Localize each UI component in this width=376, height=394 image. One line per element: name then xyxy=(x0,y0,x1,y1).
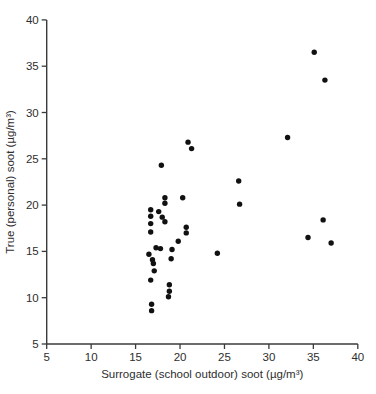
y-tick-label: 25 xyxy=(26,153,39,165)
y-tick-label: 15 xyxy=(26,245,39,257)
data-point xyxy=(153,245,158,250)
data-point xyxy=(180,195,185,200)
y-axis-title: True (personal) soot (µg/m³) xyxy=(4,110,16,254)
data-point xyxy=(149,308,154,313)
data-point xyxy=(167,289,172,294)
data-point xyxy=(162,219,167,224)
data-point xyxy=(305,235,310,240)
data-point xyxy=(158,246,163,251)
scatter-figure: 510152025303540510152025303540Surrogate … xyxy=(0,0,376,394)
data-point xyxy=(237,201,242,206)
y-tick-label: 5 xyxy=(32,338,38,350)
data-point xyxy=(160,214,165,219)
data-point xyxy=(156,209,161,214)
x-tick-label: 30 xyxy=(263,351,276,363)
data-point xyxy=(184,230,189,235)
data-point xyxy=(322,77,327,82)
data-point xyxy=(152,268,157,273)
data-point xyxy=(146,251,151,256)
data-point xyxy=(148,277,153,282)
x-tick-label: 10 xyxy=(85,351,98,363)
y-tick-label: 35 xyxy=(26,60,39,72)
x-tick-label: 20 xyxy=(174,351,187,363)
data-point xyxy=(162,195,167,200)
data-point xyxy=(236,178,241,183)
x-tick-label: 25 xyxy=(218,351,231,363)
x-tick-label: 35 xyxy=(307,351,320,363)
y-tick-label: 10 xyxy=(26,292,39,304)
data-point xyxy=(167,282,172,287)
x-axis-title: Surrogate (school outdoor) soot (µg/m³) xyxy=(101,368,303,380)
data-point xyxy=(185,139,190,144)
scatter-plot: 510152025303540510152025303540Surrogate … xyxy=(0,0,376,394)
data-point xyxy=(148,229,153,234)
data-point xyxy=(169,247,174,252)
data-point xyxy=(215,251,220,256)
data-point xyxy=(159,163,164,168)
data-point xyxy=(148,207,153,212)
data-point xyxy=(148,221,153,226)
x-tick-label: 15 xyxy=(129,351,142,363)
data-point xyxy=(184,225,189,230)
data-point xyxy=(162,201,167,206)
y-tick-label: 20 xyxy=(26,199,39,211)
data-point xyxy=(312,50,317,55)
x-tick-label: 40 xyxy=(351,351,364,363)
y-tick-label: 40 xyxy=(26,14,39,26)
data-point xyxy=(320,217,325,222)
data-point xyxy=(176,239,181,244)
data-point xyxy=(148,214,153,219)
data-point xyxy=(189,146,194,151)
data-point xyxy=(328,240,333,245)
data-point xyxy=(149,301,154,306)
x-tick-label: 5 xyxy=(43,351,49,363)
data-point xyxy=(151,261,156,266)
data-point xyxy=(285,135,290,140)
data-point xyxy=(168,256,173,261)
y-tick-label: 30 xyxy=(26,107,39,119)
data-point xyxy=(166,294,171,299)
